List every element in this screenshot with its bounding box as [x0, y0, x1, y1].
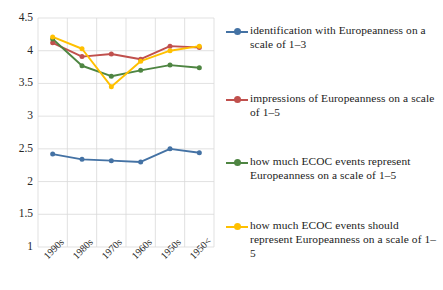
data-point	[80, 54, 85, 59]
plot-area: 11.522.533.544.5 1990s1980s1970s1960s195…	[0, 0, 222, 290]
legend-item-2[interactable]: impressions of Europeanness on a scale o…	[226, 92, 440, 120]
legend-item-1[interactable]: identification with Europeanness on a sc…	[226, 24, 440, 52]
legend-label: how much ECOC events represent Europeann…	[250, 155, 440, 183]
legend-item-3[interactable]: how much ECOC events represent Europeann…	[226, 155, 440, 183]
gridlines	[38, 18, 214, 247]
data-point	[109, 74, 114, 79]
legend-marker-icon	[226, 220, 248, 234]
legend-marker-icon	[226, 156, 248, 170]
data-point	[168, 63, 173, 68]
legend-marker-icon	[226, 93, 248, 107]
data-point	[138, 59, 143, 64]
chart-legend: identification with Europeanness on a sc…	[222, 0, 443, 290]
legend-label: impressions of Europeanness on a scale o…	[250, 92, 440, 120]
data-point	[168, 146, 173, 151]
data-point	[50, 152, 55, 157]
legend-marker-icon	[226, 25, 248, 39]
data-point	[109, 84, 114, 89]
data-point	[168, 48, 173, 53]
data-point	[80, 157, 85, 162]
data-point	[138, 159, 143, 164]
data-point	[168, 44, 173, 49]
data-point	[197, 44, 202, 49]
data-point	[138, 68, 143, 73]
legend-label: identification with Europeanness on a sc…	[250, 24, 440, 52]
data-point	[109, 51, 114, 56]
data-point	[109, 158, 114, 163]
data-point	[80, 63, 85, 68]
data-point	[197, 65, 202, 70]
legend-label: how much ECOC events should represent Eu…	[250, 219, 440, 261]
legend-item-4[interactable]: how much ECOC events should represent Eu…	[226, 219, 440, 261]
data-point	[50, 34, 55, 39]
line-chart: 11.522.533.544.5 1990s1980s1970s1960s195…	[0, 0, 443, 290]
data-point	[80, 46, 85, 51]
data-point	[197, 150, 202, 155]
